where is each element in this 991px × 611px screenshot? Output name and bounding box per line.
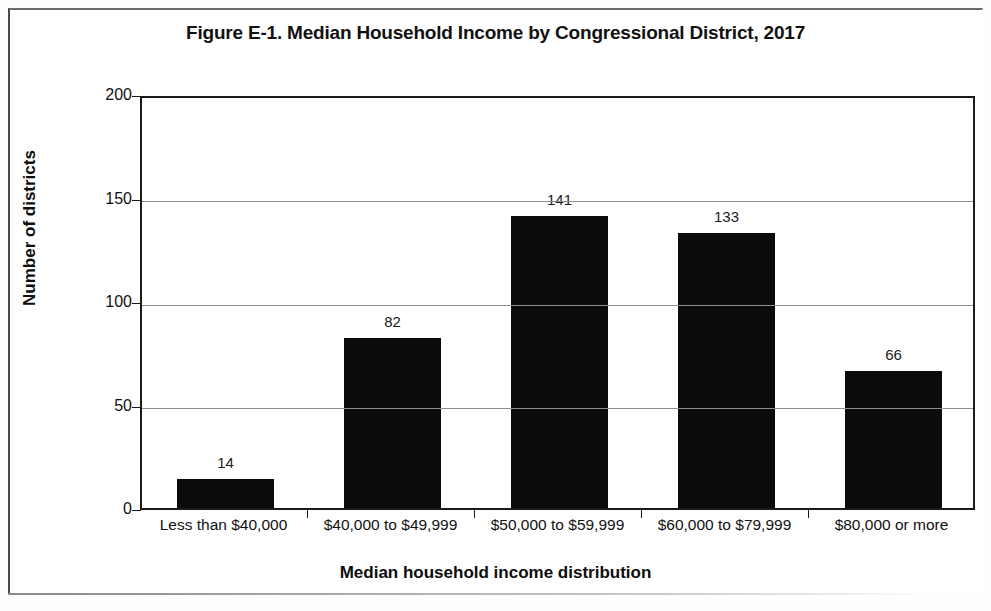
bar-value-label: 133 <box>643 208 810 225</box>
y-axis-tick-mark <box>132 96 141 97</box>
bar[interactable] <box>177 479 274 508</box>
figure-container: Figure E-1. Median Household Income by C… <box>0 0 991 611</box>
y-axis-tick-label: 200 <box>74 87 132 103</box>
bar-value-label: 14 <box>142 454 309 471</box>
gridline <box>142 305 973 306</box>
gridline <box>142 201 973 202</box>
bar-value-label: 82 <box>309 313 476 330</box>
bar[interactable] <box>678 233 775 508</box>
y-axis-tick-label: 100 <box>74 294 132 310</box>
x-axis-tick-mark <box>641 510 642 518</box>
x-axis-tick-label: $40,000 to $49,999 <box>307 516 474 534</box>
chart-title: Figure E-1. Median Household Income by C… <box>0 22 991 44</box>
x-axis-tick-label: $80,000 or more <box>808 516 975 534</box>
bar-slot: 14 <box>142 98 309 508</box>
y-axis-tick-label: 0 <box>74 501 132 517</box>
x-axis-tick-labels: Less than $40,000$40,000 to $49,999$50,0… <box>140 516 975 540</box>
y-axis-tick-mark <box>132 407 141 408</box>
y-axis-title: Number of districts <box>20 113 40 343</box>
bar-slot: 66 <box>810 98 977 508</box>
y-axis-tick-mark <box>132 510 141 511</box>
bar[interactable] <box>511 216 608 508</box>
y-axis-tick-labels: 050100150200 <box>70 96 132 510</box>
y-axis-tick-label: 50 <box>74 398 132 414</box>
bar-slot: 141 <box>476 98 643 508</box>
plot-area: 148214113366 <box>140 96 975 510</box>
gridline <box>142 408 973 409</box>
bars-layer: 148214113366 <box>142 98 973 508</box>
bar-value-label: 141 <box>476 191 643 208</box>
x-axis-tick-mark <box>474 510 475 518</box>
y-axis-tick-mark <box>132 200 141 201</box>
y-axis-tick-mark <box>132 303 141 304</box>
x-axis-tick-mark <box>307 510 308 518</box>
x-axis-tick-label: $60,000 to $79,999 <box>641 516 808 534</box>
bar[interactable] <box>344 338 441 508</box>
x-axis-tick-mark <box>808 510 809 518</box>
bar-slot: 133 <box>643 98 810 508</box>
bar-value-label: 66 <box>810 346 977 363</box>
x-axis-tick-label: Less than $40,000 <box>140 516 307 534</box>
x-axis-title: Median household income distribution <box>0 563 991 583</box>
x-axis-tick-label: $50,000 to $59,999 <box>474 516 641 534</box>
bar[interactable] <box>845 371 942 508</box>
y-axis-tick-label: 150 <box>74 191 132 207</box>
bar-slot: 82 <box>309 98 476 508</box>
